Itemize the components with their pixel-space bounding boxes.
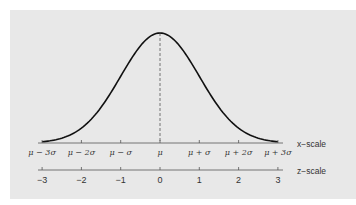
tick-label: 3 [275,175,280,185]
tick-label: μ + 2σ [225,148,253,157]
tick-label: −1 [116,175,126,185]
tick-label: 1 [197,175,202,185]
tick-label: 2 [236,175,241,185]
tick-label: 0 [157,175,162,185]
tick-label: μ − 3σ [28,148,56,157]
tick-label: μ + σ [188,148,211,157]
tick-label: μ + 3σ [264,148,292,157]
tick-label: −2 [76,175,86,185]
tick-label: μ − σ [109,148,132,157]
tick-label: μ [157,148,162,157]
normal-curve-chart: μ − 3σμ − 2σμ − σμμ + σμ + 2σμ + 3σ x−sc… [0,0,356,205]
z-scale-label: z−scale [297,166,326,176]
x-scale-ticks: μ − 3σμ − 2σμ − σμμ + σμ + 2σμ + 3σ [28,140,292,157]
x-scale-label: x−scale [297,139,326,149]
tick-label: μ − 2σ [68,148,96,157]
tick-label: −3 [37,175,47,185]
